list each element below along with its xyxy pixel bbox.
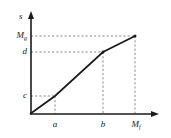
y-tick-label-d: d [2, 47, 27, 56]
y-axis-name-label: s [19, 12, 23, 21]
y-tick-label-c: c [2, 91, 27, 100]
y-tick-mg-sub: g [24, 35, 27, 41]
data-vertex-mf-mg [134, 35, 137, 38]
data-series-piecewise-linear [30, 35, 137, 115]
x-tick-label-b: b [93, 120, 113, 129]
x-tick-mf-main: M [131, 119, 139, 129]
x-tick-mf-sub: f [139, 124, 141, 130]
data-polyline [30, 36, 135, 114]
x-tick-label-mf: Mf [124, 120, 148, 129]
y-axis-arrowhead [28, 11, 34, 19]
data-vertex-b-d [102, 51, 105, 54]
x-axis-arrowhead [151, 111, 159, 117]
x-tick-label-a: a [45, 120, 65, 129]
y-tick-mg-main: M [17, 30, 25, 40]
y-tick-label-mg: Mg [2, 31, 27, 40]
plot-canvas [0, 0, 171, 138]
chart-figure: s Mg d c a b Mf [0, 0, 171, 138]
